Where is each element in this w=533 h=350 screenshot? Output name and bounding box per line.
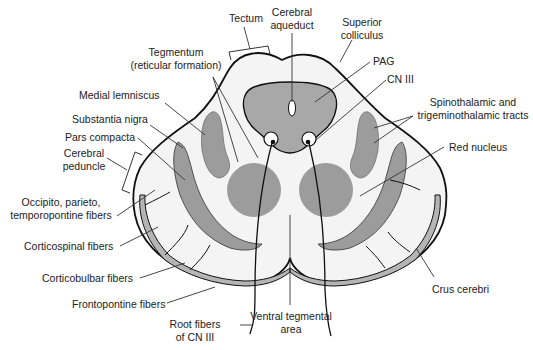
label-medial-lemniscus: Medial lemniscus	[79, 89, 160, 102]
label-corticospinal-fibers: Corticospinal fibers	[24, 240, 113, 253]
label-pars-compacta: Pars compacta	[65, 131, 135, 144]
label-spinothalamic-tracts: Spinothalamic and trigeminothalamic trac…	[412, 96, 533, 121]
red-nucleus-left	[227, 163, 281, 217]
label-crus-cerebri: Crus cerebri	[432, 283, 489, 296]
label-cerebral-aqueduct: Cerebral aqueduct	[262, 6, 322, 31]
label-cerebral-peduncle: Cerebral peduncle	[56, 147, 112, 172]
cerebral-aqueduct	[289, 100, 296, 116]
red-nucleus-right	[299, 163, 353, 217]
cn-iii-nucleus-left	[264, 132, 278, 146]
label-root-fibers-cn-iii: Root fibers of CN III	[160, 318, 230, 343]
label-corticobulbar-fibers: Corticobulbar fibers	[42, 272, 133, 285]
label-red-nucleus: Red nucleus	[449, 141, 507, 154]
label-ventral-tegmental-area: Ventral tegmental area	[245, 310, 337, 335]
label-pag: PAG	[373, 55, 394, 68]
label-cn-iii: CN III	[387, 73, 414, 86]
label-superior-colliculus: Superior colliculus	[332, 16, 392, 41]
label-tegmentum: Tegmentum (reticular formation)	[126, 46, 226, 71]
label-substantia-nigra: Substantia nigra	[72, 113, 148, 126]
label-occipito-parieto-temporopontine: Occipito, parieto, temporopontine fibers	[6, 196, 116, 221]
label-frontopontine-fibers: Frontopontine fibers	[72, 298, 165, 311]
